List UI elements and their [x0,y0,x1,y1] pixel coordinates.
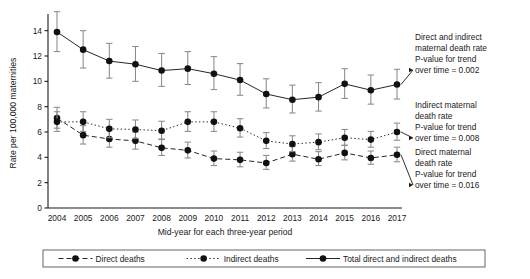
direct-annotation-pointer [401,155,413,185]
data-point-marker[interactable] [289,96,296,103]
total-annotation-line: maternal death rate [415,43,487,53]
data-point-marker[interactable] [368,155,375,162]
data-point-marker[interactable] [158,67,165,74]
data-point-marker[interactable] [394,129,401,136]
y-tick-label: 6 [37,127,42,137]
x-tick-label: 2017 [388,213,407,223]
series-direct-deaths [54,107,401,169]
y-tick-label: 14 [33,26,43,36]
x-tick-label: 2008 [152,213,171,223]
total-annotation-line: Direct and indirect [415,32,483,42]
direct-annotation-line: Direct maternal [415,147,471,157]
data-point-marker[interactable] [54,29,61,36]
indirect-annotation-arrowhead [409,136,413,140]
legend-marker [320,255,327,262]
data-point-marker[interactable] [132,126,139,133]
data-point-marker[interactable] [211,155,218,162]
total-annotation-line: over time = 0.002 [415,65,480,75]
data-point-marker[interactable] [184,147,191,154]
x-tick-label: 2005 [74,213,93,223]
data-point-marker[interactable] [106,126,113,133]
x-tick-label: 2004 [48,213,67,223]
x-tick-label: 2006 [100,213,119,223]
data-point-marker[interactable] [289,141,296,148]
data-point-marker[interactable] [158,127,165,134]
indirect-annotation-line: death rate [415,111,453,121]
y-tick-label: 8 [37,102,42,112]
data-point-marker[interactable] [263,160,270,167]
total-annotation-arrowhead [409,68,413,72]
x-axis-ticks: 2004200520062007200820092010201120122013… [48,213,407,223]
total-annotation-line: P-value for trend [415,54,477,64]
data-point-marker[interactable] [132,61,139,68]
x-tick-label: 2012 [257,213,276,223]
x-tick-label: 2009 [178,213,197,223]
y-axis-ticks: 02468101214 [33,26,48,213]
data-point-marker[interactable] [315,139,322,146]
x-tick-label: 2007 [126,213,145,223]
legend-marker [200,255,207,262]
annotations: Direct and indirectmaternal death rateP-… [401,32,487,190]
x-tick-label: 2010 [205,213,224,223]
data-point-marker[interactable] [237,125,244,132]
legend-label: Indirect deaths [224,254,279,264]
chart-canvas: 02468101214Rate per 100,000 maternities2… [0,0,530,279]
x-tick-label: 2013 [283,213,302,223]
y-tick-label: 4 [37,152,42,162]
data-point-marker[interactable] [211,119,218,126]
data-point-marker[interactable] [237,77,244,84]
data-point-marker[interactable] [80,46,87,53]
data-point-marker[interactable] [315,94,322,101]
data-point-marker[interactable] [341,81,348,88]
series-total-direct-and-indirect-deaths [54,12,401,113]
x-tick-label: 2011 [231,213,249,223]
data-point-marker[interactable] [184,65,191,72]
direct-annotation-line: over time = 0.016 [415,180,480,190]
data-point-marker[interactable] [341,150,348,157]
legend-marker [72,255,79,262]
legend-label: Direct deaths [95,254,144,264]
legend-label: Total direct and indirect deaths [343,254,457,264]
x-tick-label: 2014 [309,213,328,223]
x-tick-label: 2016 [362,213,381,223]
y-tick-label: 12 [33,51,43,61]
data-point-marker[interactable] [368,87,375,94]
total-annotation-pointer [401,70,413,85]
data-point-marker[interactable] [80,119,87,126]
data-point-marker[interactable] [263,138,270,145]
series-line [57,32,397,100]
maternal-death-rate-chart: 02468101214Rate per 100,000 maternities2… [0,0,530,279]
data-point-marker[interactable] [315,156,322,163]
data-point-marker[interactable] [54,119,61,126]
data-point-marker[interactable] [158,145,165,152]
y-tick-label: 10 [33,76,43,86]
x-tick-label: 2015 [335,213,354,223]
data-point-marker[interactable] [237,157,244,164]
data-point-marker[interactable] [80,132,87,139]
data-point-marker[interactable] [184,119,191,126]
data-point-marker[interactable] [263,91,270,98]
data-point-marker[interactable] [341,134,348,141]
data-point-marker[interactable] [368,136,375,143]
direct-annotation-line: death rate [415,158,453,168]
data-point-marker[interactable] [211,70,218,77]
direct-annotation-line: P-value for trend [415,169,477,179]
series-indirect-deaths [54,112,401,152]
indirect-annotation-line: P-value for trend [415,122,477,132]
data-point-marker[interactable] [394,152,401,159]
y-tick-label: 2 [37,178,42,188]
indirect-annotation-line: Indirect maternal [415,100,477,110]
x-axis-title: Mid-year for each three-year period [158,227,293,237]
indirect-annotation-line: over time = 0.008 [415,133,480,143]
data-point-marker[interactable] [106,58,113,65]
data-point-marker[interactable] [394,81,401,88]
axes [48,14,402,208]
y-tick-label: 0 [37,203,42,213]
y-axis-title: Rate per 100,000 maternities [8,58,18,169]
legend: Direct deathsIndirect deathsTotal direct… [43,250,485,267]
